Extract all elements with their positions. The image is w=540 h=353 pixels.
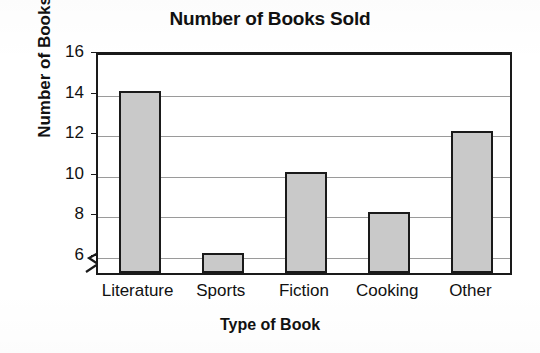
bar-fiction — [285, 172, 327, 273]
y-tick-label-12: 12 — [48, 124, 84, 141]
chart-title: Number of Books Sold — [0, 8, 540, 30]
y-tick-label-6: 6 — [48, 246, 84, 263]
y-tick-label-16: 16 — [48, 43, 84, 60]
bar-cooking — [368, 212, 410, 273]
y-tick-label-10: 10 — [48, 165, 84, 182]
bar-sports — [202, 253, 244, 273]
bar-chart: Number of Books Sold Number of Books 681… — [0, 0, 540, 353]
x-axis-title: Type of Book — [0, 316, 540, 334]
bar-other — [451, 131, 493, 273]
x-tick-label-other: Other — [410, 281, 530, 301]
bar-literature — [119, 91, 161, 273]
y-tick-label-14: 14 — [48, 84, 84, 101]
y-tick-label-8: 8 — [48, 205, 84, 222]
plot-area — [96, 52, 512, 275]
